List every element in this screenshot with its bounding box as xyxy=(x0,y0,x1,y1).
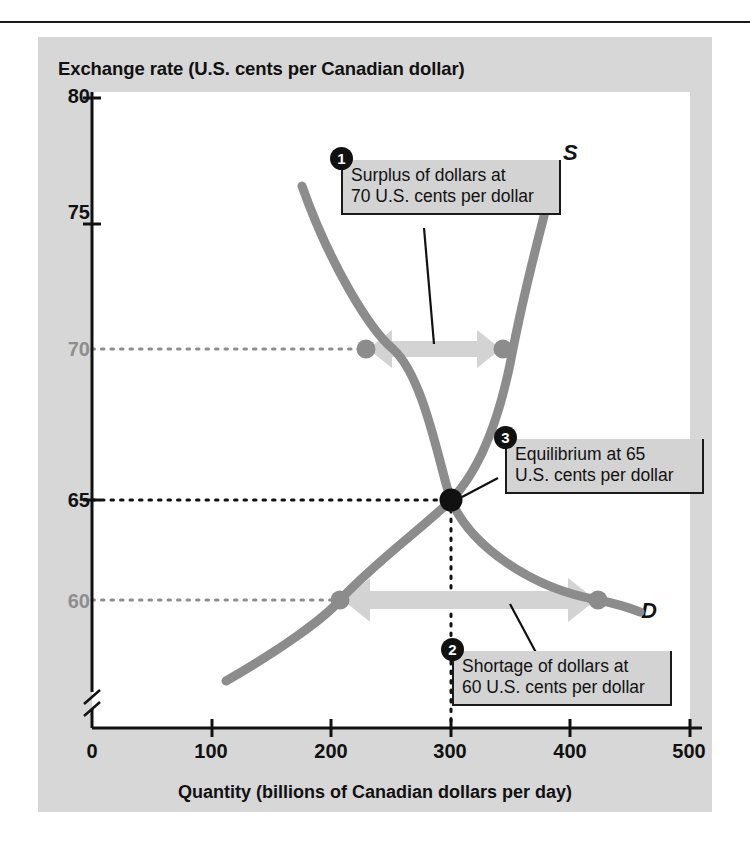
axis-break-mark-upper xyxy=(84,690,100,704)
marker-demand-at-60 xyxy=(589,591,608,610)
callout-badge-3: 3 xyxy=(494,426,517,449)
demand-curve xyxy=(302,186,640,612)
callout-shortage: Shortage of dollars at 60 U.S. cents per… xyxy=(452,651,672,706)
marker-demand-at-70 xyxy=(357,340,376,359)
callout-surplus: Surplus of dollars at 70 U.S. cents per … xyxy=(341,160,561,215)
chart-graphics xyxy=(0,0,750,841)
exchange-rate-figure: Exchange rate (U.S. cents per Canadian d… xyxy=(0,0,750,841)
marker-equilibrium xyxy=(440,489,463,512)
leader-line-surplus xyxy=(424,228,434,344)
callout-badge-1: 1 xyxy=(330,147,353,170)
marker-supply-at-60 xyxy=(331,591,350,610)
marker-supply-at-70 xyxy=(494,340,513,359)
callout-equilibrium: Equilibrium at 65 U.S. cents per dollar xyxy=(505,439,704,494)
callout-badge-2: 2 xyxy=(441,638,464,661)
